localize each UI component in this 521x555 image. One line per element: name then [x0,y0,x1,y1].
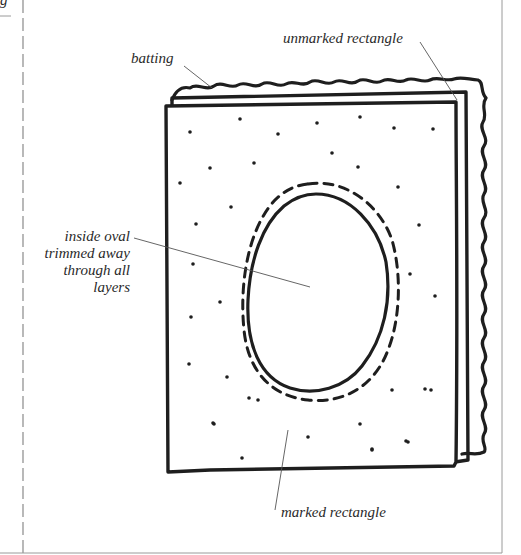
inside-oval-label-line-2: trimmed away [30,245,130,262]
inside-oval-label: inside oval trimmed away through all lay… [30,228,130,296]
unmarked-rectangle-label: unmarked rectangle [283,30,403,47]
partial-label-fragment: g [0,0,8,9]
inside-oval-label-line-3: through all [30,262,130,279]
inside-oval-label-line-1: inside oval [30,228,130,245]
inside-oval-label-line-4: layers [30,279,130,296]
diagram-canvas: g batting unmarked rectangle inside oval… [0,0,521,555]
marked-rectangle-label: marked rectangle [281,504,386,521]
trimmed-oval [248,194,388,391]
batting-label: batting [131,50,174,67]
